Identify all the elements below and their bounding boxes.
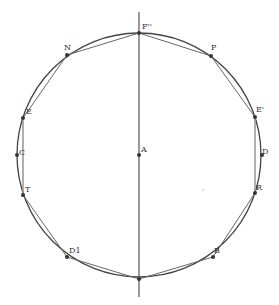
point-d1 [65, 255, 69, 259]
point-e1 [253, 115, 257, 119]
stray-dot [202, 189, 203, 190]
point-n [65, 53, 69, 57]
label-d: D [262, 148, 268, 156]
geometry-diagram [0, 0, 279, 305]
label-r: R [256, 184, 262, 192]
polygon-edge [67, 33, 139, 55]
label-p: P [211, 44, 216, 52]
polygon-edge [23, 195, 67, 257]
polygon-edge [211, 56, 255, 117]
label-e1: E' [256, 106, 264, 114]
label-a: A [141, 146, 147, 154]
point-e [21, 116, 25, 120]
label-d1: D1 [69, 247, 81, 255]
point-f3 [137, 277, 141, 281]
polygon-edge [139, 257, 213, 279]
polygon-edge [67, 257, 139, 279]
point-f2 [137, 31, 141, 35]
label-f2: F'' [142, 23, 152, 31]
point-p [209, 54, 213, 58]
label-e: E [26, 108, 32, 116]
label-c: C [19, 149, 25, 157]
point-b [211, 255, 215, 259]
label-n: N [64, 44, 71, 52]
label-t: T [25, 186, 30, 194]
label-b: B [214, 247, 220, 255]
polygon-edge [139, 33, 211, 56]
